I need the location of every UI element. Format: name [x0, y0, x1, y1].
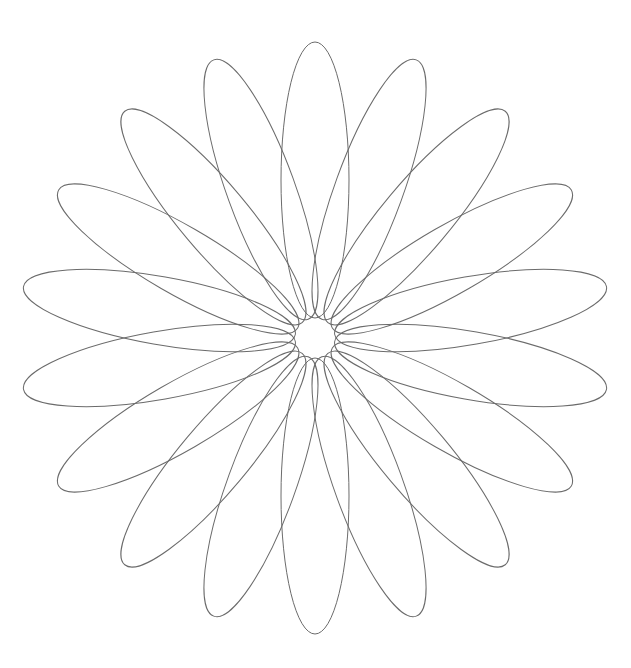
petal-outline	[302, 89, 532, 344]
petal-outline	[302, 331, 532, 586]
petals-group	[18, 42, 613, 634]
flower-rosette-drawing	[0, 0, 631, 668]
petal-outline	[99, 89, 329, 344]
petal-outline	[281, 42, 349, 318]
petal-outline	[290, 48, 448, 331]
petal-outline	[18, 253, 302, 368]
petal-outline	[281, 358, 349, 634]
petal-outline	[182, 345, 340, 628]
petal-outline	[182, 48, 340, 331]
petal-outline	[290, 345, 448, 628]
petal-outline	[99, 331, 329, 586]
petal-outline	[18, 308, 302, 423]
petal-outline	[329, 308, 613, 423]
petal-outline	[329, 253, 613, 368]
